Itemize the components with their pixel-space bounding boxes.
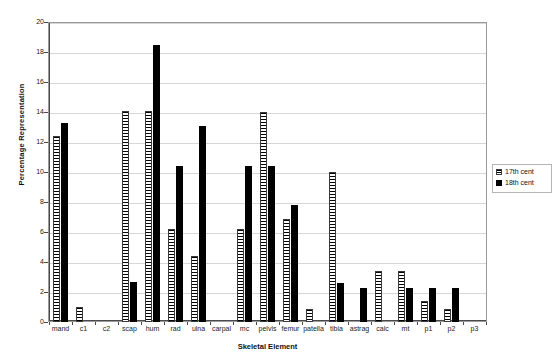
x-tick-label-patella: patella: [302, 324, 325, 333]
bar-ulna-18th-cent: [199, 126, 206, 322]
bar-rad-18th-cent: [176, 166, 183, 322]
x-tick-label-tibia: tibia: [325, 324, 348, 333]
bar-ulna-17th-cent: [191, 256, 198, 322]
bar-p1-18th-cent: [429, 288, 436, 323]
bar-pelvis-17th-cent: [260, 112, 267, 322]
bar-mt-17th-cent: [398, 271, 405, 322]
bar-mand-18th-cent: [61, 123, 68, 322]
bar-femur-17th-cent: [283, 219, 290, 323]
bar-calc-17th-cent: [375, 271, 382, 322]
bar-mc-18th-cent: [245, 166, 252, 322]
bar-mc-17th-cent: [237, 229, 244, 322]
x-tick-label-mc: mc: [233, 324, 256, 333]
x-tick-label-rad: rad: [164, 324, 187, 333]
bar-hum-18th-cent: [153, 45, 160, 323]
x-tick-label-p1: p1: [417, 324, 440, 333]
legend-item-17th-cent[interactable]: 17th cent: [496, 167, 549, 177]
x-tick-label-ulna: ulna: [187, 324, 210, 333]
x-axis-labels: mandc1c2scaphumradulnacarpalmcpelvisfemu…: [48, 324, 487, 338]
bar-tibia-18th-cent: [337, 283, 344, 322]
bar-rad-17th-cent: [168, 229, 175, 322]
bar-mt-18th-cent: [406, 288, 413, 323]
x-tick-label-mand: mand: [49, 324, 72, 333]
legend-label: 18th cent: [505, 179, 534, 187]
x-axis-title: Skeletal Element: [48, 342, 487, 351]
x-tick-label-carpal: carpal: [210, 324, 233, 333]
bar-pelvis-18th-cent: [268, 166, 275, 322]
legend-swatch-icon-18th-cent: [496, 180, 502, 186]
bar-p1-17th-cent: [421, 301, 428, 322]
x-tick-label-c1: c1: [72, 324, 95, 333]
bar-scap-17th-cent: [122, 111, 129, 323]
bar-mand-17th-cent: [53, 136, 60, 322]
legend-item-18th-cent[interactable]: 18th cent: [496, 178, 549, 188]
x-tick-label-calc: calc: [371, 324, 394, 333]
x-tick-label-femur: femur: [279, 324, 302, 333]
x-tick-label-astrag: astrag: [348, 324, 371, 333]
x-tick-label-hum: hum: [141, 324, 164, 333]
bar-tibia-17th-cent: [329, 172, 336, 322]
bar-scap-18th-cent: [130, 282, 137, 323]
x-tick-label-pelvis: pelvis: [256, 324, 279, 333]
legend-swatch-icon-17th-cent: [496, 169, 502, 175]
bar-femur-18th-cent: [291, 205, 298, 322]
bar-hum-17th-cent: [145, 111, 152, 323]
bar-chart: Percentage Representation 02468101214161…: [0, 0, 560, 363]
x-tick-label-mt: mt: [394, 324, 417, 333]
y-axis-ticks: [0, 22, 48, 322]
bar-c1-17th-cent: [76, 307, 83, 322]
bars-layer: [49, 22, 486, 322]
bar-patella-17th-cent: [306, 309, 313, 323]
x-tick-label-scap: scap: [118, 324, 141, 333]
x-tick-label-c2: c2: [95, 324, 118, 333]
bar-p2-17th-cent: [444, 309, 451, 323]
bar-astrag-18th-cent: [360, 288, 367, 323]
x-tick-label-p2: p2: [440, 324, 463, 333]
bar-p2-18th-cent: [452, 288, 459, 323]
chart-legend: 17th cent18th cent: [492, 164, 552, 193]
legend-label: 17th cent: [505, 168, 534, 176]
x-tick-label-p3: p3: [463, 324, 486, 333]
